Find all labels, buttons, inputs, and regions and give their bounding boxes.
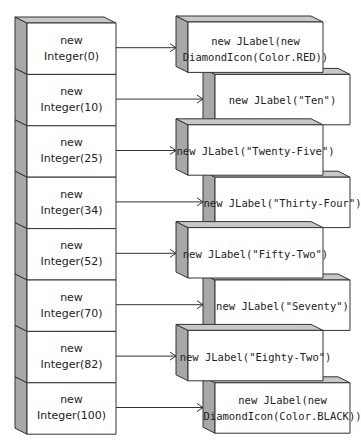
value-label: new JLabel("Eighty-Two") (188, 331, 323, 382)
key-cell-4-side (15, 223, 27, 280)
key-label: new Integer(10) (27, 74, 116, 125)
key-cell-1-side (15, 68, 27, 125)
value-label: new JLabel("Seventy") (215, 280, 350, 331)
value-cell-0-top (176, 16, 323, 22)
key-cell-7-side (15, 377, 27, 434)
value-label: new JLabel(new DiamondIcon(Color.RED)) (188, 23, 323, 74)
key-label: new Integer(100) (27, 383, 116, 434)
key-cell-5-side (15, 274, 27, 331)
key-label: new Integer(70) (27, 280, 116, 331)
value-label: new JLabel("Fifty-Two") (188, 229, 323, 280)
key-label: new Integer(0) (27, 23, 116, 74)
value-label: new JLabel("Twenty-Five") (188, 126, 323, 177)
value-label: new JLabel("Ten") (215, 74, 350, 125)
hashtable-key-value-diagram: new Integer(0)new JLabel(new DiamondIcon… (0, 0, 361, 444)
key-label: new Integer(52) (27, 229, 116, 280)
key-cell-6-side (15, 325, 27, 382)
key-cell-3-side (15, 171, 27, 228)
value-label: new JLabel(new DiamondIcon(Color.BLACK)) (215, 383, 350, 434)
key-label: new Integer(82) (27, 331, 116, 382)
key-cell-2-side (15, 120, 27, 177)
key-label: new Integer(34) (27, 177, 116, 228)
value-cell-1-side (203, 68, 215, 124)
value-cell-5-side (203, 274, 215, 330)
key-label: new Integer(25) (27, 126, 116, 177)
key-cell-0-side (15, 17, 27, 74)
value-label: new JLabel("Thirty-Four") (215, 177, 350, 228)
